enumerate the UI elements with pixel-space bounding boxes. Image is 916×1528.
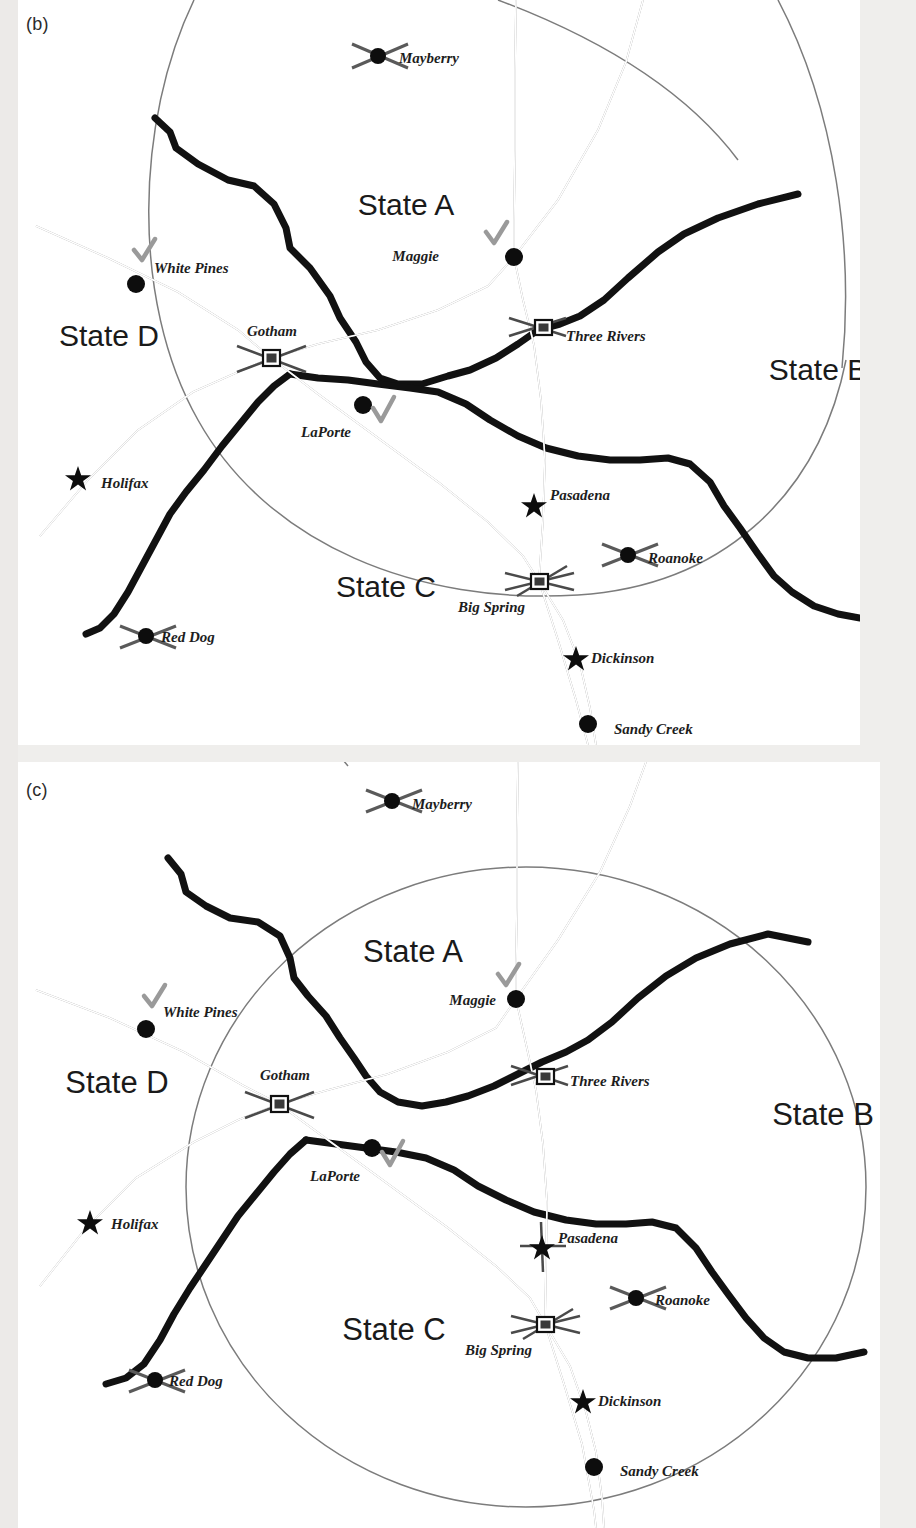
road-vertical-c — [516, 762, 596, 1528]
city-marker-white-pines[interactable] — [127, 275, 145, 293]
dickinson-star-c — [570, 1389, 596, 1413]
map-panel-c: State A State B State C State D Mayberry — [18, 762, 880, 1528]
city-marker-holifax[interactable] — [65, 466, 91, 490]
roanoke-dot-c — [628, 1290, 644, 1306]
city-label-sandy-creek: Sandy Creek — [614, 721, 693, 737]
red-dog-dot — [138, 628, 154, 644]
river-southwest — [86, 374, 290, 634]
state-label-a: State A — [358, 188, 455, 221]
city-label-three-rivers-c: Three Rivers — [570, 1073, 650, 1089]
maggie-dot-c — [507, 990, 525, 1008]
check-icon-white-pines-c — [144, 985, 165, 1006]
city-label-laporte-c: LaPorte — [309, 1168, 360, 1184]
boundary-arc-a-c — [149, 0, 846, 596]
city-marker-maggie[interactable] — [505, 248, 523, 266]
city-label-pasadena: Pasadena — [550, 487, 611, 503]
holifax-star-c — [77, 1210, 103, 1234]
sandy-creek-dot — [579, 715, 597, 733]
city-markers-c: Mayberry White Pines Maggie — [77, 790, 710, 1479]
state-label-c-c: State C — [342, 1312, 445, 1347]
city-marker-laporte-c[interactable] — [363, 1139, 381, 1157]
boundary-arc-b-right — [778, 0, 846, 368]
city-marker-dickinson-c[interactable] — [570, 1389, 596, 1413]
state-label-d-c: State D — [65, 1065, 168, 1100]
city-label-maggie: Maggie — [391, 248, 439, 264]
check-icon-maggie — [486, 222, 507, 243]
city-label-maggie-c: Maggie — [448, 992, 496, 1008]
map-svg-c: State A State B State C State D Mayberry — [18, 762, 880, 1528]
city-marker-gotham-c[interactable] — [245, 1092, 314, 1118]
city-marker-maggie-c[interactable] — [507, 990, 525, 1008]
road-sw-ne-c — [40, 762, 646, 1286]
panel-tag-c: (c) — [26, 780, 48, 801]
city-label-sandy-creek-c: Sandy Creek — [620, 1463, 699, 1479]
mayberry-dot-c — [384, 793, 400, 809]
laporte-dot — [354, 396, 372, 414]
state-boundaries-b — [149, 0, 846, 596]
city-label-white-pines-c: White Pines — [163, 1004, 238, 1020]
river-southwest-c — [106, 1140, 306, 1384]
city-label-big-spring-c: Big Spring — [464, 1342, 533, 1358]
city-label-mayberry: Mayberry — [398, 50, 459, 66]
laporte-dot-c — [363, 1139, 381, 1157]
city-marker-dickinson[interactable] — [563, 646, 589, 670]
rivers-b — [86, 118, 860, 634]
city-label-red-dog: Red Dog — [160, 629, 215, 645]
city-label-gotham-c: Gotham — [260, 1067, 310, 1083]
roads-b — [36, 0, 643, 745]
road-vertical — [514, 0, 588, 745]
white-pines-dot-c — [137, 1020, 155, 1038]
state-boundaries-c — [186, 762, 866, 1507]
city-label-mayberry-c: Mayberry — [411, 796, 472, 812]
state-label-b: State B — [769, 353, 860, 386]
dickinson-star — [563, 646, 589, 670]
city-marker-sandy-creek[interactable] — [579, 715, 597, 733]
state-labels-b: State A State B State C State D — [59, 188, 860, 603]
roanoke-dot — [620, 547, 636, 563]
city-label-dickinson: Dickinson — [590, 650, 654, 666]
maggie-dot — [505, 248, 523, 266]
map-svg-b: State A State B State C State D Mayberry — [18, 0, 860, 745]
rivers-c — [106, 858, 864, 1384]
state-label-a-c: State A — [363, 934, 463, 969]
boundary-arc-left — [198, 762, 348, 766]
city-label-gotham: Gotham — [247, 323, 297, 339]
state-label-c: State C — [336, 570, 436, 603]
city-label-holifax: Holifax — [100, 475, 149, 491]
mayberry-dot — [370, 48, 386, 64]
map-panel-b: State A State B State C State D Mayberry — [18, 0, 860, 745]
road-sw-ne-core — [40, 0, 643, 536]
holifax-star — [65, 466, 91, 490]
city-label-white-pines: White Pines — [154, 260, 229, 276]
city-markers-b: Mayberry White Pines Maggie — [65, 44, 703, 737]
road-vertical-core — [514, 0, 588, 745]
left-page-edge — [0, 0, 18, 1528]
road-sw-ne — [40, 0, 643, 536]
road-vertical-core-c — [516, 762, 596, 1528]
city-label-laporte: LaPorte — [300, 424, 351, 440]
road-sw-ne-core-c — [40, 762, 646, 1286]
city-label-dickinson-c: Dickinson — [597, 1393, 661, 1409]
red-dog-dot-c — [147, 1372, 163, 1388]
city-marker-gotham[interactable] — [237, 346, 306, 372]
city-marker-laporte[interactable] — [354, 396, 372, 414]
white-pines-dot — [127, 275, 145, 293]
city-label-roanoke: Roanoke — [647, 550, 703, 566]
city-marker-white-pines-c[interactable] — [137, 1020, 155, 1038]
city-label-pasadena-c: Pasadena — [558, 1230, 619, 1246]
city-label-red-dog-c: Red Dog — [168, 1373, 223, 1389]
panel-tag-b: (b) — [26, 14, 49, 35]
state-label-b-c: State B — [772, 1097, 874, 1132]
city-label-big-spring: Big Spring — [457, 599, 526, 615]
city-marker-holifax-c[interactable] — [77, 1210, 103, 1234]
city-marker-sandy-creek-c[interactable] — [585, 1458, 603, 1476]
check-icon-laporte — [373, 397, 394, 421]
check-icon-white-pines — [134, 239, 155, 260]
sandy-creek-dot-c — [585, 1458, 603, 1476]
city-label-holifax-c: Holifax — [110, 1216, 159, 1232]
river-north — [155, 118, 798, 384]
state-label-d: State D — [59, 319, 159, 352]
city-label-three-rivers: Three Rivers — [566, 328, 646, 344]
figure-container: State A State B State C State D Mayberry — [0, 0, 916, 1528]
city-label-roanoke-c: Roanoke — [654, 1292, 710, 1308]
